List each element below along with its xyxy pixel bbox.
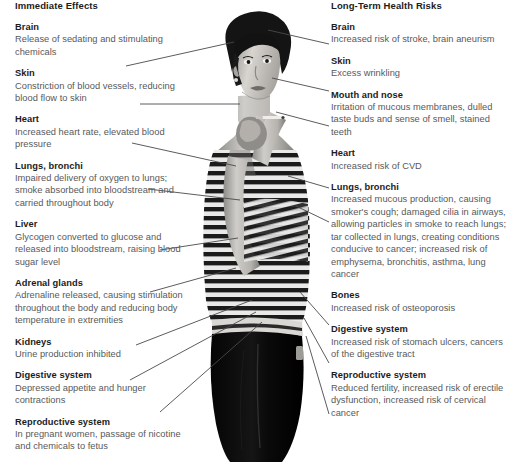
long-term-risks-column: Long-Term Health Risks Brain Increased r… [331, 0, 513, 419]
organ-label: Skin [15, 67, 195, 79]
callout-longterm-mouth-and-nose: Mouth and nose Irritation of mucous memb… [331, 89, 513, 139]
organ-label: Reproductive system [15, 416, 195, 428]
smoker-photograph [186, 0, 334, 468]
effect-text: Increased mucous production, causing smo… [331, 193, 513, 280]
effect-text: Increased risk of osteoporosis [331, 302, 513, 314]
callout-immediate-heart: Heart Increased heart rate, elevated blo… [15, 113, 195, 150]
effect-text: In pregnant women, passage of nicotine a… [15, 428, 195, 453]
organ-label: Lungs, bronchi [15, 160, 195, 172]
organ-label: Heart [331, 147, 513, 159]
organ-label: Adrenal glands [15, 277, 195, 289]
immediate-effects-column: Immediate Effects Brain Release of sedat… [15, 0, 195, 453]
effect-text: Release of sedating and stimulating chem… [15, 33, 195, 58]
effect-text: Depressed appetite and hunger contractio… [15, 382, 195, 407]
organ-label: Kidneys [15, 336, 195, 348]
callout-longterm-digestive-system: Digestive system Increased risk of stoma… [331, 323, 513, 360]
callout-immediate-lungs: Lungs, bronchi Impaired delivery of oxyg… [15, 160, 195, 210]
infographic-canvas: Immediate Effects Brain Release of sedat… [0, 0, 521, 468]
callout-immediate-kidneys: Kidneys Urine production inhibited [15, 336, 195, 361]
effect-text: Glycogen converted to glucose and releas… [15, 231, 195, 268]
immediate-effects-title: Immediate Effects [15, 0, 195, 12]
callout-immediate-reproductive-system: Reproductive system In pregnant women, p… [15, 416, 195, 453]
organ-label: Brain [15, 21, 195, 33]
organ-label: Digestive system [15, 369, 195, 381]
effect-text: Urine production inhibited [15, 348, 195, 360]
organ-label: Lungs, bronchi [331, 181, 513, 193]
organ-label: Brain [331, 21, 513, 33]
callout-immediate-digestive-system: Digestive system Depressed appetite and … [15, 369, 195, 406]
callout-longterm-lungs: Lungs, bronchi Increased mucous producti… [331, 181, 513, 280]
effect-text: Adrenaline released, causing stimulation… [15, 289, 195, 326]
effect-text: Increased risk of CVD [331, 160, 513, 172]
callout-longterm-bones: Bones Increased risk of osteoporosis [331, 289, 513, 314]
long-term-risks-title: Long-Term Health Risks [331, 0, 513, 12]
callout-longterm-reproductive-system: Reproductive system Reduced fertility, i… [331, 369, 513, 419]
callout-immediate-brain: Brain Release of sedating and stimulatin… [15, 21, 195, 58]
callout-immediate-adrenal-glands: Adrenal glands Adrenaline released, caus… [15, 277, 195, 327]
callout-longterm-heart: Heart Increased risk of CVD [331, 147, 513, 172]
callout-longterm-brain: Brain Increased risk of stroke, brain an… [331, 21, 513, 46]
organ-label: Digestive system [331, 323, 513, 335]
organ-label: Reproductive system [331, 369, 513, 381]
effect-text: Reduced fertility, increased risk of ere… [331, 382, 513, 419]
effect-text: Irritation of mucous membranes, dulled t… [331, 101, 513, 138]
callout-immediate-liver: Liver Glycogen converted to glucose and … [15, 218, 195, 268]
effect-text: Increased heart rate, elevated blood pre… [15, 126, 195, 151]
organ-label: Skin [331, 55, 513, 67]
effect-text: Constriction of blood vessels, reducing … [15, 80, 195, 105]
organ-label: Bones [331, 289, 513, 301]
effect-text: Excess wrinkling [331, 67, 513, 79]
callout-immediate-skin: Skin Constriction of blood vessels, redu… [15, 67, 195, 104]
organ-label: Mouth and nose [331, 89, 513, 101]
effect-text: Increased risk of stomach ulcers, cancer… [331, 336, 513, 361]
effect-text: Increased risk of stroke, brain aneurism [331, 33, 513, 45]
callout-longterm-skin: Skin Excess wrinkling [331, 55, 513, 80]
organ-label: Heart [15, 113, 195, 125]
organ-label: Liver [15, 218, 195, 230]
effect-text: Impaired delivery of oxygen to lungs; sm… [15, 172, 195, 209]
